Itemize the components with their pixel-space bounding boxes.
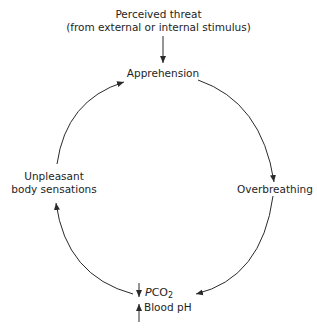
apprehension-node: Apprehension [113, 67, 213, 80]
perceived-threat-line2: (from external or internal stimulus) [0, 21, 317, 34]
arrow-overbreathing-to-pco2 [196, 196, 273, 294]
pco2-node: PCO2 [145, 286, 173, 302]
unpleasant-sensations-node: Unpleasant body sensations [4, 170, 104, 196]
unpleasant-line2: body sensations [4, 183, 104, 196]
arrow-apprehension-to-overbreathing [198, 80, 274, 182]
perceived-threat-line1: Perceived threat [0, 8, 317, 21]
pco2-main: CO [152, 286, 168, 299]
unpleasant-line1: Unpleasant [4, 170, 104, 183]
perceived-threat-label: Perceived threat (from external or inter… [0, 8, 317, 34]
blood-ph-node: Blood pH [144, 301, 192, 314]
pco2-sub: 2 [168, 291, 173, 300]
arrow-pco2-to-unpleasant [56, 203, 133, 294]
cycle-diagram-lines [0, 0, 317, 333]
pco2-prefix: P [145, 286, 152, 299]
arrow-unpleasant-to-apprehension [57, 82, 124, 164]
overbreathing-node: Overbreathing [234, 183, 316, 196]
